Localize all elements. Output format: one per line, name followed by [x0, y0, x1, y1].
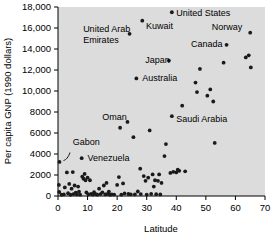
data-point [170, 10, 174, 14]
data-point [249, 65, 253, 69]
point-annotation-label: Oman [102, 112, 127, 122]
x-tick-label: 0 [55, 202, 60, 213]
data-point [158, 193, 162, 197]
data-point [133, 193, 137, 197]
data-point [248, 31, 252, 35]
point-annotation-label: Kuwait [146, 21, 174, 31]
data-point [146, 176, 150, 180]
data-point [123, 191, 127, 195]
data-point [222, 61, 226, 65]
data-point [142, 174, 146, 178]
data-point [144, 179, 148, 183]
x-tick-label: 20 [112, 202, 123, 213]
data-point [67, 182, 71, 186]
data-point [138, 167, 142, 171]
y-axis-title: Per capita GNP (1990 dollars) [2, 38, 13, 165]
y-tick-label: 4000 [30, 148, 51, 159]
data-point [170, 114, 174, 118]
data-point [78, 193, 82, 197]
data-point [225, 43, 229, 47]
data-point [129, 192, 133, 196]
data-point [180, 104, 184, 108]
y-tick-label: 14,000 [22, 43, 51, 54]
point-annotation-label: Japan [145, 55, 170, 65]
y-tick-label: 6000 [30, 127, 51, 138]
data-point [205, 94, 209, 98]
point-annotation-label-line2: Emirates [83, 35, 119, 45]
data-point [132, 135, 136, 139]
data-point [65, 170, 69, 174]
y-tick-label: 8000 [30, 106, 51, 117]
data-point [156, 179, 160, 183]
x-tick-label: 30 [141, 202, 152, 213]
x-tick-label: 60 [230, 202, 241, 213]
data-point [247, 53, 251, 57]
data-point [76, 185, 80, 189]
data-point [149, 192, 153, 196]
scatter-chart-figure: 0200040006000800010,00012,00014,00016,00… [0, 0, 277, 238]
data-point [119, 193, 123, 197]
data-point [154, 192, 158, 196]
point-annotation-label: Canada [191, 39, 223, 49]
data-point [117, 175, 121, 179]
data-point [58, 160, 62, 164]
y-tick-label: 0 [46, 190, 51, 201]
data-point [121, 182, 125, 186]
data-point [134, 77, 138, 81]
y-tick-label: 12,000 [22, 64, 51, 75]
data-point [163, 154, 167, 158]
data-point [97, 187, 101, 191]
data-point [195, 90, 199, 94]
data-point [194, 81, 198, 85]
data-point [145, 193, 149, 197]
data-point [140, 19, 144, 23]
data-point [213, 141, 217, 145]
data-point [198, 67, 202, 71]
x-tick-label: 40 [171, 202, 182, 213]
data-point [112, 193, 116, 197]
data-point [83, 172, 87, 176]
y-tick-label: 2000 [30, 169, 51, 180]
data-point [57, 183, 61, 187]
point-annotation-label: Gabon [73, 137, 100, 147]
data-point [177, 169, 181, 173]
data-point [164, 142, 168, 146]
y-tick-label: 16,000 [22, 22, 51, 33]
data-point [160, 181, 164, 185]
x-tick-label: 50 [201, 202, 212, 213]
data-point [152, 185, 156, 189]
point-annotation-label: Norway [212, 22, 243, 32]
data-point [80, 156, 84, 160]
point-annotation-label: United Arab [83, 24, 130, 34]
y-tick-label: 10,000 [22, 85, 51, 96]
data-point [73, 184, 77, 188]
data-point [62, 193, 66, 197]
data-point [71, 170, 75, 174]
point-annotation-label: Saudi Arabia [176, 114, 227, 124]
data-point [88, 178, 92, 182]
point-annotation-label: Australia [142, 73, 177, 83]
chart-svg: 0200040006000800010,00012,00014,00016,00… [0, 0, 277, 238]
data-point [118, 126, 122, 130]
data-point [95, 193, 99, 197]
data-point [136, 190, 140, 194]
data-point [115, 183, 119, 187]
data-point [139, 192, 143, 196]
data-point [183, 169, 187, 173]
data-point [157, 173, 161, 177]
y-tick-label: 18,000 [22, 1, 51, 12]
point-annotation-label: United States [176, 8, 231, 18]
x-tick-label: 70 [260, 202, 271, 213]
data-point [151, 173, 155, 177]
point-annotation-label: Venezuela [88, 153, 130, 163]
x-axis-title: Latitude [144, 223, 178, 234]
data-point [148, 128, 152, 132]
x-tick-label: 10 [82, 202, 93, 213]
data-point [105, 181, 109, 185]
data-point [63, 185, 67, 189]
data-point [70, 187, 74, 191]
data-point [211, 100, 215, 104]
data-point [208, 88, 212, 92]
